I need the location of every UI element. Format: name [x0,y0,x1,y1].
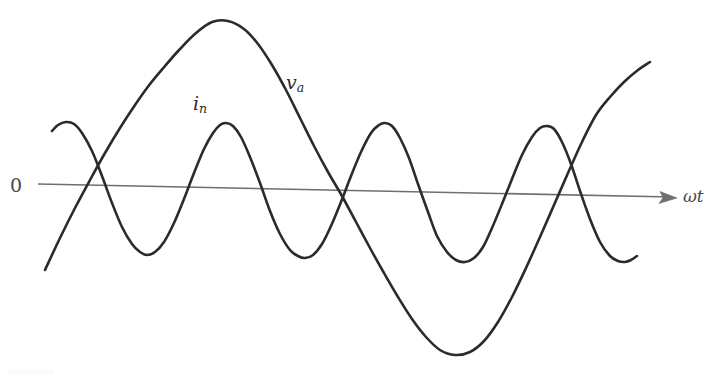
curve-label-va-subscript: a [297,80,304,95]
x-axis-label: ωt [683,188,704,205]
curve-label-va: va [286,73,304,95]
page-edge-artifact [8,370,54,375]
curve-label-va-base: v [286,71,297,93]
waveform-canvas [0,0,713,379]
zero-axis-label: 0 [10,176,22,195]
waveform-figure: 0 ωt va in [0,0,713,379]
curve-label-in: in [193,94,207,116]
curve-i-n [52,122,637,262]
zero-axis-line [38,184,672,197]
curve-label-in-subscript: n [199,101,207,116]
